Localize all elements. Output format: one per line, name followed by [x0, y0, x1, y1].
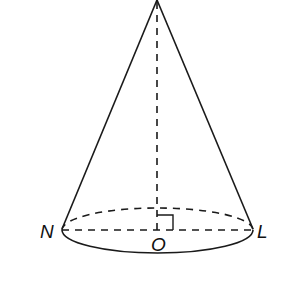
- label-O: O: [151, 234, 166, 255]
- cone-diagram: N L O: [0, 0, 288, 294]
- label-N: N: [40, 221, 54, 242]
- label-L: L: [257, 221, 268, 242]
- slant-edge-left: [62, 0, 157, 229]
- slant-edge-right: [157, 0, 253, 229]
- right-angle-marker: [157, 215, 173, 230]
